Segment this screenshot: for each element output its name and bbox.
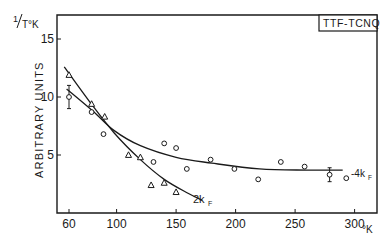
- chart: 6010015020025030051015 TTF-TCNQ 1 T°K AR…: [0, 0, 388, 243]
- circle-marker: [162, 141, 167, 146]
- x-tick-label: 100: [107, 217, 127, 231]
- x-axis-unit: °K: [362, 224, 373, 235]
- circle-marker: [278, 160, 283, 165]
- curve-label-4kf-main: -4k: [351, 168, 366, 179]
- curve-label-4kf-sub: F: [368, 174, 372, 181]
- fit-curve-2kf: [64, 67, 202, 200]
- circle-marker: [327, 172, 332, 177]
- y-unit-denominator: T°K: [22, 19, 39, 30]
- x-tick-label: 200: [226, 217, 246, 231]
- fit-curve-4kf: [67, 89, 343, 170]
- y-unit-numerator: 1: [13, 14, 18, 24]
- title-box: TTF-TCNQ: [319, 15, 380, 31]
- triangle-marker: [66, 72, 72, 78]
- triangle-marker: [173, 189, 179, 195]
- circle-marker: [232, 167, 237, 172]
- data-points: [66, 72, 349, 195]
- circle-marker: [174, 146, 179, 151]
- circle-marker: [67, 95, 72, 100]
- triangle-marker: [126, 152, 132, 158]
- circle-marker: [151, 160, 156, 165]
- circle-marker: [89, 110, 94, 115]
- circle-marker: [184, 167, 189, 172]
- triangle-marker: [102, 114, 108, 120]
- y-tick-label: 15: [41, 32, 55, 46]
- curve-label-4kf: -4k F: [351, 168, 372, 181]
- x-tick-label: 250: [285, 217, 305, 231]
- circle-marker: [101, 132, 106, 137]
- curve-label-2kf: 2k F: [193, 193, 212, 207]
- curve-label-2kf-sub: F: [208, 200, 212, 207]
- curve-label-2kf-main: 2k: [193, 193, 205, 205]
- circle-marker: [302, 164, 307, 169]
- circle-marker: [256, 177, 261, 182]
- x-tick-label: 60: [62, 217, 76, 231]
- y-unit-label: 1 T°K: [13, 14, 39, 30]
- y-axis-title: ARBITRARY UNITS: [33, 61, 45, 178]
- y-tick-label: 5: [47, 148, 54, 162]
- x-tick-label: 150: [166, 217, 186, 231]
- circle-marker: [208, 157, 213, 162]
- circle-marker: [344, 176, 349, 181]
- triangle-marker: [148, 182, 154, 188]
- chart-title: TTF-TCNQ: [323, 17, 380, 29]
